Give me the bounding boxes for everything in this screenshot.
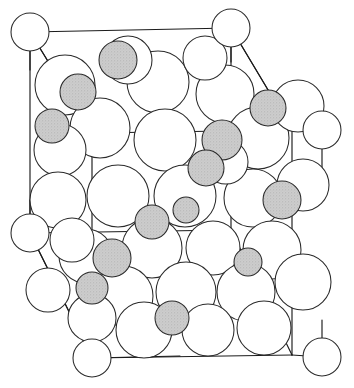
small-atom-0 bbox=[99, 41, 137, 79]
small-atom-6 bbox=[263, 181, 301, 219]
small-atom-10 bbox=[76, 272, 108, 304]
small-atom-5 bbox=[188, 150, 224, 186]
small-atom-12 bbox=[155, 301, 189, 335]
small-atom-3 bbox=[250, 90, 286, 126]
large-atom-23 bbox=[237, 301, 291, 355]
corner-back-top-right bbox=[212, 9, 250, 47]
large-atom-22 bbox=[182, 304, 234, 356]
figure-canvas bbox=[0, 0, 354, 388]
corner-back-top-left bbox=[11, 13, 49, 51]
large-atom-28 bbox=[26, 268, 70, 312]
small-atom-11 bbox=[234, 248, 262, 276]
small-atom-2 bbox=[35, 109, 69, 143]
cell-edge-0 bbox=[30, 28, 231, 32]
small-atom-1 bbox=[60, 74, 96, 110]
large-atom-20 bbox=[275, 254, 331, 310]
corner-front-top-right bbox=[303, 111, 341, 149]
large-atom-27 bbox=[50, 218, 94, 262]
small-atom-9 bbox=[93, 239, 131, 277]
small-atom-8 bbox=[135, 205, 169, 239]
small-atom-7 bbox=[173, 197, 199, 223]
corner-front-bottom-right bbox=[303, 338, 341, 376]
large-atom-4 bbox=[134, 109, 196, 171]
corner-front-bottom-left bbox=[73, 339, 111, 377]
crystal-unit-cell-figure bbox=[0, 0, 354, 388]
corner-back-bottom-left bbox=[11, 214, 49, 252]
